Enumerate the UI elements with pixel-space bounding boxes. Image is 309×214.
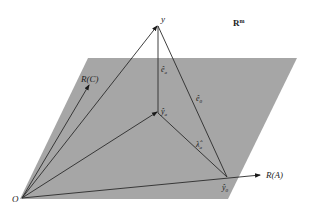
label-RC: R(C) [80, 74, 99, 84]
subspace-plane [20, 58, 297, 199]
label-y: y [160, 14, 165, 24]
label-origin: O [12, 194, 19, 204]
label-space: Rm [233, 18, 245, 28]
label-RA: R(A) [265, 170, 283, 180]
geometry-diagram: y Rm êa ê0 ŷa λ̂a ŷ0 R(C) R(A) O [0, 0, 309, 214]
